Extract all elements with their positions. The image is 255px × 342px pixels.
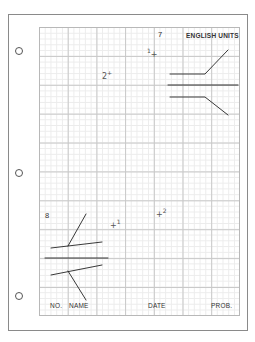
p7-lower-bent-line (170, 97, 228, 115)
p8-lower-diagonal (68, 271, 86, 300)
problem-drawings (0, 0, 255, 342)
p7-upper-bent-line (170, 50, 228, 74)
p8-lower-slanted-line (51, 265, 102, 275)
p8-upper-diagonal (68, 214, 86, 246)
p8-upper-slanted-line (51, 242, 102, 248)
